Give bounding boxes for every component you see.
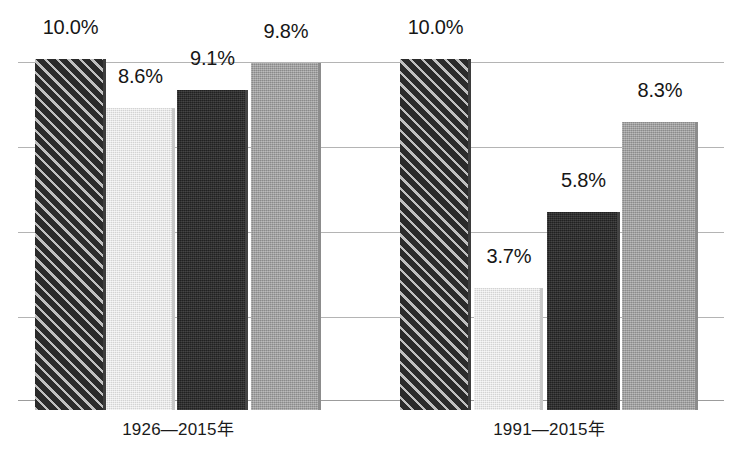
bar-g2-s3 <box>547 212 620 410</box>
plot-area: 10.0% 8.6% 9.1% 9.8% 10.0% 3.7% 5.8% 8.3… <box>0 0 732 410</box>
bar-g1-s2 <box>106 108 175 410</box>
gridline-10 <box>18 62 724 63</box>
bar-g1-s1 <box>35 59 106 410</box>
bar-g1-s4 <box>251 63 321 410</box>
category-label-1: 1926—2015年 <box>78 420 278 440</box>
bar-g2-s2 <box>474 288 543 410</box>
value-label-g1-s2: 8.6% <box>92 66 189 86</box>
value-label-g2-s4: 8.3% <box>611 80 709 100</box>
bar-chart: 10.0% 8.6% 9.1% 9.8% 10.0% 3.7% 5.8% 8.3… <box>0 0 732 468</box>
value-label-g2-s3: 5.8% <box>534 170 633 190</box>
bar-g2-s1 <box>400 59 471 410</box>
value-label-g1-s3: 9.1% <box>163 48 262 68</box>
value-label-g2-s1: 10.0% <box>385 17 486 37</box>
bar-g1-s3 <box>177 90 248 410</box>
bar-g2-s4 <box>622 122 698 410</box>
value-label-g1-s1: 10.0% <box>20 17 121 37</box>
category-label-2: 1991—2015年 <box>449 420 649 440</box>
value-label-g2-s2: 3.7% <box>461 246 557 266</box>
value-label-g1-s4: 9.8% <box>237 21 335 41</box>
